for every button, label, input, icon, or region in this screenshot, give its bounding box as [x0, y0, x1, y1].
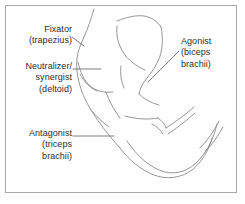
deltoid-fold: [78, 62, 113, 92]
elbow-notch: [158, 118, 166, 128]
biceps-belly-fold: [139, 94, 159, 105]
antecubital-fold: [152, 124, 163, 134]
torso-edge-hint: [91, 110, 109, 127]
triceps-long-head: [106, 92, 120, 118]
shoulder-upper-arm-contour: [77, 9, 120, 148]
leader-line-agonist: [148, 51, 179, 82]
elbow-crease: [125, 116, 158, 119]
figure-canvas: Fixator (trapezius) Neutralizer/ synergi…: [0, 0, 245, 204]
brachialis-stroke: [121, 66, 124, 88]
biceps-medial-contour: [117, 26, 145, 70]
leader-lines-group: [72, 37, 179, 136]
arm-outline-group: [77, 9, 223, 178]
label-neutralizer-synergist: Neutralizer/ synergist (deltoid): [4, 61, 72, 95]
label-agonist: Agonist (biceps brachii): [181, 36, 239, 70]
biceps-lateral-contour: [139, 27, 162, 94]
label-antagonist: Antagonist (triceps brachii): [6, 128, 72, 162]
label-fixator: Fixator (trapezius): [8, 24, 72, 47]
trapezius-top-curve: [117, 16, 161, 27]
